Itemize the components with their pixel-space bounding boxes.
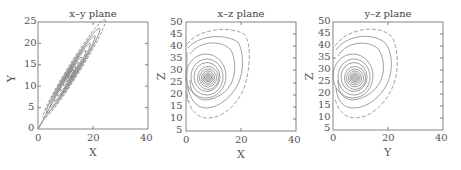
y-axis-label: Z xyxy=(303,73,316,81)
plot-area-yz xyxy=(333,22,443,130)
plot-area-xy xyxy=(38,22,148,129)
panel-title: x–z plane xyxy=(186,8,296,19)
plot-area-xz xyxy=(186,22,296,131)
y-axis-label: Y xyxy=(5,75,18,82)
x-axis-label: Y xyxy=(384,146,391,159)
panel-title: x–y plane xyxy=(38,8,148,19)
y-axis-label: Z xyxy=(155,73,168,81)
panel-title: y–z plane xyxy=(333,8,443,19)
x-axis-label: X xyxy=(89,146,97,159)
x-axis-label: X xyxy=(237,148,245,161)
